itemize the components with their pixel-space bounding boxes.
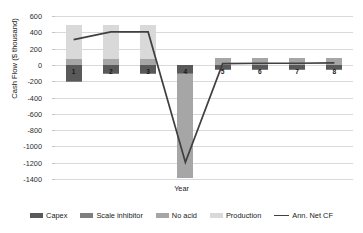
cash-flow-chart: Cash Flow ($ thousand) 6004002000-200-40… (0, 0, 363, 233)
legend-item-capex[interactable]: Capex (30, 211, 67, 220)
y-axis-tick-mark (52, 179, 55, 180)
legend-item-ann-net-cf[interactable]: Ann. Net CF (274, 211, 333, 220)
legend-item-label: No acid (172, 211, 197, 220)
y-axis-tick-label: -400 (2, 93, 42, 102)
legend-item-label: Production (226, 211, 261, 220)
y-axis-tick-label: 0 (2, 60, 42, 69)
y-axis-tick-label: 400 (2, 28, 42, 37)
x-axis-title: Year (0, 184, 363, 193)
y-axis-tick-label: -600 (2, 109, 42, 118)
legend-item-no-acid[interactable]: No acid (156, 211, 197, 220)
legend-item-label: Ann. Net CF (292, 211, 333, 220)
plot-area: 6004002000-200-400-600-800-1000-1200-140… (55, 16, 353, 179)
y-axis-tick-label: -1200 (2, 158, 42, 167)
legend-item-label: Scale inhibitor (96, 211, 142, 220)
legend-swatch-production (210, 213, 223, 218)
legend-item-production[interactable]: Production (210, 211, 261, 220)
chart-legend: CapexScale inhibitorNo acidProductionAnn… (0, 211, 363, 220)
legend-swatch-capex (30, 213, 43, 218)
y-axis-tick-label: -200 (2, 77, 42, 86)
y-axis-tick-label: -800 (2, 126, 42, 135)
y-axis-tick-label: -1000 (2, 142, 42, 151)
legend-item-label: Capex (46, 211, 67, 220)
y-axis-tick-label: -1400 (2, 175, 42, 184)
legend-item-scale-inhibitor[interactable]: Scale inhibitor (80, 211, 142, 220)
gridline (55, 179, 353, 180)
legend-swatch-scale-inhibitor (80, 213, 93, 218)
legend-line-ann-net-cf (274, 215, 289, 216)
y-axis-tick-label: 600 (2, 12, 42, 21)
line-series-ann-net-cf (55, 16, 353, 179)
legend-swatch-no-acid (156, 213, 169, 218)
y-axis-tick-label: 200 (2, 44, 42, 53)
